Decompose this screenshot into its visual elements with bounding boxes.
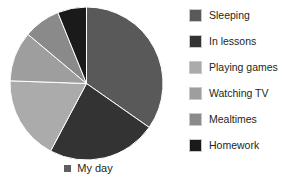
legend-item[interactable]: Sleeping — [189, 2, 281, 28]
legend-item[interactable]: In lessons — [189, 28, 281, 54]
pie-slice-group — [10, 7, 163, 160]
chart-legend: SleepingIn lessonsPlaying gamesWatching … — [189, 2, 281, 168]
legend-item-label: Homework — [209, 139, 259, 152]
legend-item-label: In lessons — [209, 35, 256, 48]
legend-item[interactable]: Mealtimes — [189, 106, 281, 132]
legend-item-label: Playing games — [209, 61, 278, 74]
legend-swatch-icon — [189, 87, 202, 100]
pie-plot-area — [6, 4, 171, 162]
legend-item-label: Sleeping — [209, 9, 250, 22]
series-marker-icon — [64, 165, 71, 172]
pie-svg — [6, 4, 171, 162]
legend-swatch-icon — [189, 61, 202, 74]
legend-swatch-icon — [189, 139, 202, 152]
legend-item[interactable]: Homework — [189, 132, 281, 158]
legend-item-label: Mealtimes — [209, 113, 257, 126]
legend-swatch-icon — [189, 9, 202, 22]
series-caption: My day — [6, 160, 171, 176]
legend-item[interactable]: Playing games — [189, 54, 281, 80]
legend-swatch-icon — [189, 113, 202, 126]
legend-item-label: Watching TV — [209, 87, 269, 100]
series-caption-label: My day — [77, 162, 112, 175]
pie-chart-figure: My day SleepingIn lessonsPlaying gamesWa… — [0, 0, 281, 178]
legend-item[interactable]: Watching TV — [189, 80, 281, 106]
legend-swatch-icon — [189, 35, 202, 48]
